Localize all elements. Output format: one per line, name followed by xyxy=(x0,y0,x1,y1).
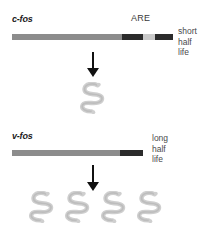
are-label: ARE xyxy=(131,13,150,23)
transcript-segment-coding-dark-1-cfos xyxy=(122,34,143,40)
arrow-head-vfos xyxy=(87,182,99,191)
protein-squiggle-icon-vfos-4 xyxy=(135,191,163,223)
gene-label-cfos: c-fos xyxy=(12,14,33,24)
half-life-line-2-cfos: half xyxy=(178,37,197,48)
transcript-segment-coding-dark-1-vfos xyxy=(120,150,143,156)
transcript-segment-coding-dark-2-cfos xyxy=(155,34,173,40)
half-life-line-1-cfos: short xyxy=(178,26,197,37)
protein-squiggle-icon-vfos-3 xyxy=(99,191,127,223)
transcript-segment-are-element-cfos xyxy=(143,34,155,40)
half-life-label-vfos: long half life xyxy=(152,133,168,165)
half-life-line-3-vfos: life xyxy=(152,154,168,165)
half-life-line-1-vfos: long xyxy=(152,133,168,144)
protein-squiggle-icon-vfos-1 xyxy=(27,191,55,223)
transcript-bar-cfos xyxy=(12,34,173,40)
fos-stability-figure: c-fos ARE short half life v-fos long hal… xyxy=(0,0,214,227)
gene-label-vfos: v-fos xyxy=(12,131,33,141)
arrow-head-cfos xyxy=(87,68,99,77)
transcript-segment-utr-body-vfos xyxy=(12,150,120,156)
protein-squiggle-icon-vfos-2 xyxy=(63,191,91,223)
half-life-line-2-vfos: half xyxy=(152,144,168,155)
down-arrow-icon-vfos xyxy=(87,165,99,192)
transcript-bar-vfos xyxy=(12,150,143,156)
half-life-label-cfos: short half life xyxy=(178,26,197,58)
protein-squiggle-icon-cfos-1 xyxy=(78,82,106,114)
transcript-segment-utr-body-cfos xyxy=(12,34,122,40)
down-arrow-icon-cfos xyxy=(87,52,99,78)
half-life-line-3-cfos: life xyxy=(178,47,197,58)
